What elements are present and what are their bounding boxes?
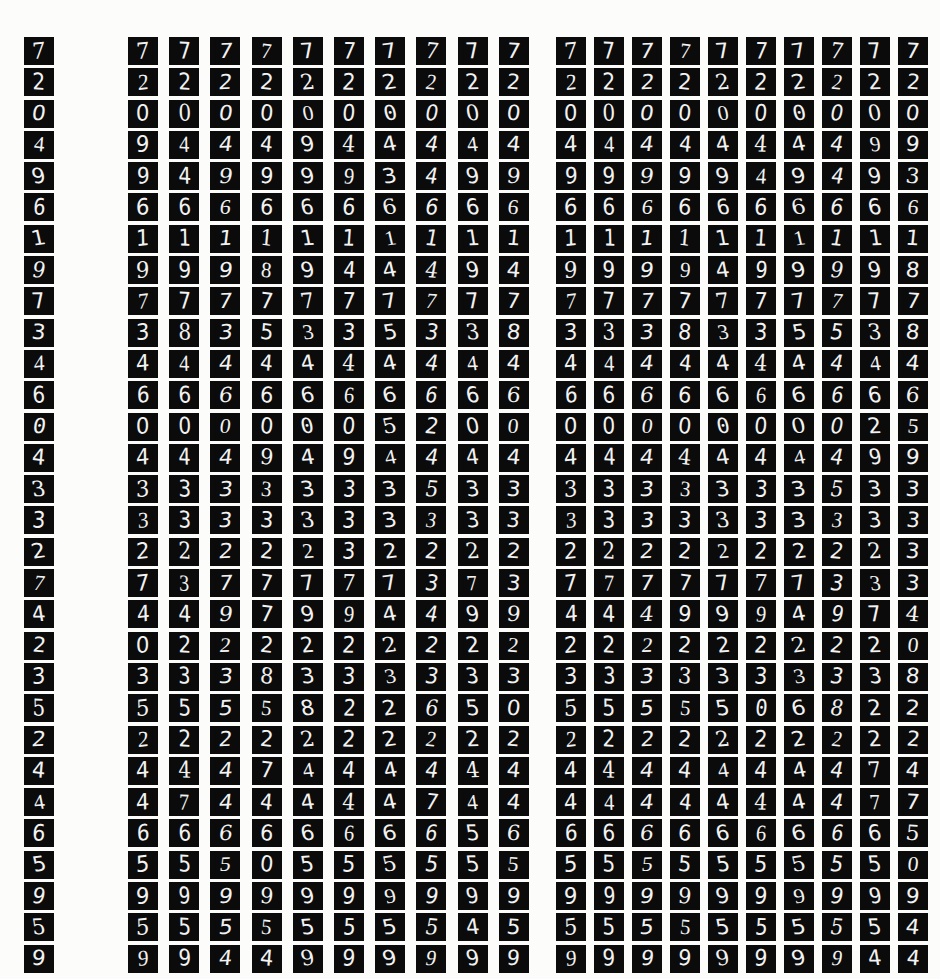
digit-glyph: 2 xyxy=(867,541,884,563)
digit-glyph: 4 xyxy=(828,791,845,814)
digit-glyph: 1 xyxy=(639,228,656,249)
digit-glyph: 4 xyxy=(564,446,578,470)
sample-a-digit-cell: 1 xyxy=(293,225,323,253)
sample-a-digit-cell: 2 xyxy=(334,694,364,722)
sample-a-digit-cell: 0 xyxy=(252,413,282,441)
sample-a-digit-cell: 4 xyxy=(375,788,405,816)
digit-glyph: 7 xyxy=(464,290,481,312)
sample-b-digit-cell: 2 xyxy=(898,726,928,754)
sample-a-digit-cell: 1 xyxy=(252,225,282,253)
digit-glyph: 5 xyxy=(136,915,150,939)
digit-glyph: 3 xyxy=(603,665,616,689)
sample-b-digit-cell: 2 xyxy=(708,538,738,566)
sample-b-digit-cell: 1 xyxy=(746,225,776,253)
sample-a-digit-cell: 3 xyxy=(334,663,364,691)
sample-a-digit-cell: 8 xyxy=(252,256,282,284)
digit-glyph: 3 xyxy=(868,572,882,594)
sample-b-digit-cell: 4 xyxy=(822,444,852,472)
sample-b-digit-cell: 7 xyxy=(632,37,662,65)
sample-b-digit-cell: 4 xyxy=(670,444,700,472)
sample-b-digit-cell: 4 xyxy=(556,788,586,816)
digit-glyph: 9 xyxy=(828,259,845,282)
digit-glyph: 5 xyxy=(714,916,732,938)
sample-b-digit-cell: 5 xyxy=(594,851,624,879)
digit-glyph: 4 xyxy=(714,259,732,281)
sample-a-digit-cell: 8 xyxy=(499,319,529,347)
digit-glyph: 9 xyxy=(178,947,191,971)
sample-b-digit-cell: 0 xyxy=(746,413,776,441)
sample-b-digit-cell: 6 xyxy=(784,819,814,847)
sample-a-digit-cell: 0 xyxy=(499,694,529,722)
digit-glyph: 5 xyxy=(639,917,656,938)
sample-b-digit-cell: 0 xyxy=(860,100,890,128)
sample-a-digit-cell: 9 xyxy=(458,882,488,910)
digit-glyph: 5 xyxy=(423,853,440,876)
digit-glyph: 4 xyxy=(564,759,578,783)
digit-glyph: 7 xyxy=(217,40,234,61)
sample-b-digit-cell: 7 xyxy=(784,287,814,315)
digit-glyph: 4 xyxy=(342,353,357,376)
sample-b-digit-cell: 8 xyxy=(898,319,928,347)
sample-a-digit-cell: 0 xyxy=(458,100,488,128)
sample-b-digit-cell: 5 xyxy=(632,851,662,879)
digit-glyph: 3 xyxy=(259,509,274,532)
digit-glyph: 6 xyxy=(790,822,809,844)
sample-b-digit-cell: 3 xyxy=(632,663,662,691)
digit-glyph: 6 xyxy=(178,822,191,846)
sample-b-digit-cell: 6 xyxy=(632,819,662,847)
digit-glyph: 9 xyxy=(464,259,481,281)
digit-glyph: 0 xyxy=(677,415,692,438)
digit-glyph: 2 xyxy=(31,635,46,657)
digit-glyph: 5 xyxy=(464,823,481,845)
digit-glyph: 4 xyxy=(905,948,920,970)
digit-glyph: 2 xyxy=(342,634,357,657)
sample-a-digit-cell: 7 xyxy=(128,37,158,65)
digit-glyph: 4 xyxy=(790,791,809,813)
digit-glyph: 4 xyxy=(828,446,845,469)
sample-b-digit-cell: 6 xyxy=(556,381,586,409)
sample-a-digit-cell: 4 xyxy=(128,444,158,472)
digit-glyph: 9 xyxy=(299,885,317,907)
digit-glyph: 2 xyxy=(714,635,731,657)
sample-b-digit-cell: 6 xyxy=(632,381,662,409)
sample-b-digit-cell: 4 xyxy=(594,444,624,472)
sample-b-digit-cell: 3 xyxy=(746,475,776,503)
sample-b-digit-cell: 4 xyxy=(556,131,586,159)
digit-glyph: 2 xyxy=(714,71,732,93)
sample-a-digit-cell: 6 xyxy=(416,819,446,847)
sample-a-digit-cell: 4 xyxy=(416,444,446,472)
reference-digit-cell: 6 xyxy=(24,381,54,409)
digit-glyph: 4 xyxy=(754,446,769,469)
digit-glyph: 5 xyxy=(381,415,400,437)
digit-glyph: 2 xyxy=(602,634,615,658)
digit-glyph: 7 xyxy=(342,572,357,595)
digit-glyph: 6 xyxy=(867,384,884,406)
sample-a-digit-cell: 9 xyxy=(210,882,240,910)
digit-glyph: 2 xyxy=(464,729,481,751)
sample-a-digit-cell: 1 xyxy=(169,225,199,253)
sample-b-digit-cell: 9 xyxy=(594,882,624,910)
digit-glyph: 4 xyxy=(677,446,692,469)
sample-a-digit-cell: 2 xyxy=(169,68,199,96)
digit-glyph: 7 xyxy=(565,290,576,313)
digit-glyph: 2 xyxy=(381,634,400,656)
sample-b-digit-cell: 5 xyxy=(822,851,852,879)
sample-b-digit-cell: 0 xyxy=(784,100,814,128)
digit-glyph: 5 xyxy=(790,854,809,876)
digit-glyph: 4 xyxy=(564,352,578,376)
digit-glyph: 3 xyxy=(754,478,768,501)
sample-b-digit-cell: 2 xyxy=(556,726,586,754)
digit-glyph: 4 xyxy=(217,792,234,813)
digit-glyph: 6 xyxy=(790,697,809,719)
digit-glyph: 4 xyxy=(423,165,439,188)
digit-glyph: 4 xyxy=(342,791,357,814)
sample-a-digit-cell: 7 xyxy=(128,569,158,597)
digit-glyph: 2 xyxy=(716,541,731,563)
sample-a-digit-cell: 3 xyxy=(128,663,158,691)
digit-glyph: 4 xyxy=(564,790,578,814)
digit-glyph: 4 xyxy=(31,759,46,782)
digit-glyph: 4 xyxy=(465,791,479,813)
sample-a-digit-cell: 4 xyxy=(458,757,488,785)
digit-glyph: 8 xyxy=(260,259,272,282)
sample-b-digit-cell: 3 xyxy=(556,663,586,691)
